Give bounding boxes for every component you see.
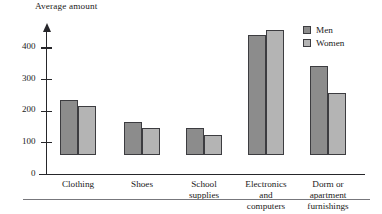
bar-group	[248, 0, 284, 155]
y-tick-300: 300	[41, 79, 52, 80]
category-label-4: Dorm or apartment furnishings	[286, 179, 370, 213]
legend-swatch-men-icon	[303, 26, 311, 34]
bar-women-1	[142, 128, 160, 155]
legend-item-men: Men	[303, 24, 344, 37]
y-tick-0: 0	[41, 174, 52, 175]
bar-women-3	[266, 30, 284, 155]
bar-women-2	[204, 135, 222, 155]
bar-chart-figure: Average amount 0100200300400 ClothingSho…	[0, 0, 382, 214]
legend-item-women: Women	[303, 37, 344, 50]
legend-label-men: Men	[316, 24, 333, 37]
x-axis-line	[39, 174, 365, 175]
chart-legend: Men Women	[303, 24, 344, 49]
y-axis-arrow-icon	[43, 23, 51, 32]
y-tick-200: 200	[41, 111, 52, 112]
bar-men-1	[124, 122, 142, 155]
figure-bottom-rule	[23, 199, 370, 200]
y-tick-label-200: 200	[22, 104, 36, 114]
legend-swatch-women-icon	[303, 39, 311, 47]
bar-men-0	[60, 100, 78, 155]
y-tick-400: 400	[41, 47, 52, 48]
bar-men-2	[186, 128, 204, 155]
legend-label-women: Women	[316, 37, 344, 50]
bar-men-3	[248, 35, 266, 155]
y-tick-label-400: 400	[22, 41, 36, 51]
y-tick-label-300: 300	[22, 73, 36, 83]
bar-women-0	[78, 106, 96, 155]
bar-group	[124, 0, 160, 155]
y-tick-label-100: 100	[22, 136, 36, 146]
y-tick-label-0: 0	[31, 168, 36, 178]
bar-group	[60, 0, 96, 155]
bar-men-4	[310, 66, 328, 155]
bar-group	[186, 0, 222, 155]
y-tick-100: 100	[41, 142, 52, 143]
bar-women-4	[328, 93, 346, 155]
